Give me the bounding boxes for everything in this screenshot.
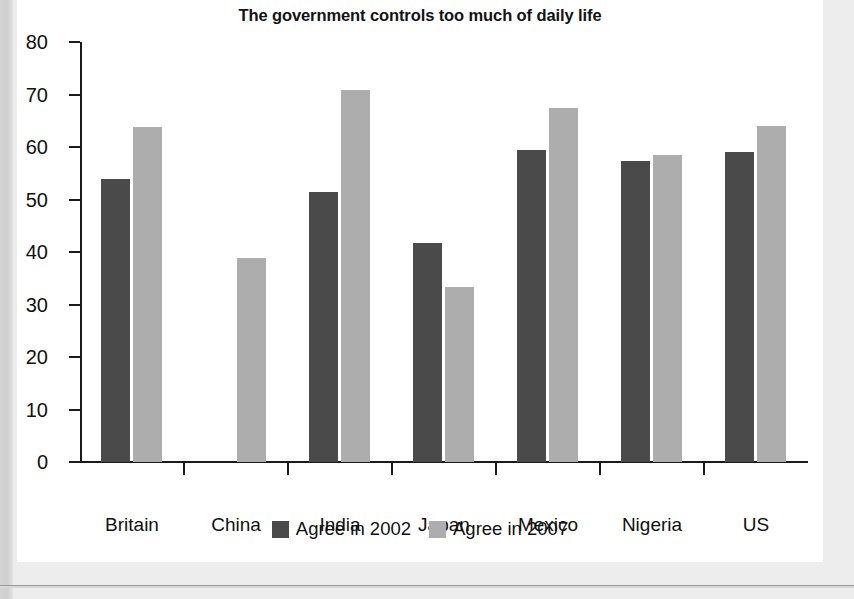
bar xyxy=(653,155,682,462)
y-axis-tick-label: 60 xyxy=(8,136,48,159)
bar-group xyxy=(496,42,600,462)
y-axis-tick xyxy=(69,146,80,148)
bar xyxy=(517,150,546,462)
legend-swatch-icon xyxy=(272,521,289,538)
bar xyxy=(725,152,754,462)
bar-group xyxy=(184,42,288,462)
legend-item: Agree in 2007 xyxy=(429,518,568,540)
chart-legend: Agree in 2002Agree in 2007 xyxy=(17,518,823,540)
bar xyxy=(445,287,474,462)
y-axis-tick xyxy=(69,251,80,253)
bar xyxy=(413,243,442,462)
legend-swatch-icon xyxy=(429,521,446,538)
bar xyxy=(757,126,786,462)
legend-label: Agree in 2002 xyxy=(296,518,411,540)
y-axis-tick-label: 70 xyxy=(8,83,48,106)
bar-group xyxy=(600,42,704,462)
y-axis-tick-label: 80 xyxy=(8,31,48,54)
y-axis-tick xyxy=(69,94,80,96)
y-axis-tick-label: 30 xyxy=(8,293,48,316)
y-axis-tick-label: 0 xyxy=(8,451,48,474)
y-axis-tick xyxy=(69,409,80,411)
plot-area: 01020304050607080 BritainChinaIndiaJapan… xyxy=(80,42,808,462)
chart-title: The government controls too much of dail… xyxy=(17,6,823,25)
bar xyxy=(341,90,370,462)
legend-item: Agree in 2002 xyxy=(272,518,411,540)
y-axis-tick-label: 40 xyxy=(8,241,48,264)
legend-label: Agree in 2007 xyxy=(453,518,568,540)
bar xyxy=(309,192,338,462)
y-axis-tick xyxy=(69,199,80,201)
bar xyxy=(549,108,578,462)
x-axis-tick xyxy=(703,462,705,475)
chart-panel: The government controls too much of dail… xyxy=(17,0,823,562)
bar-group xyxy=(392,42,496,462)
y-axis-tick xyxy=(69,41,80,43)
bar xyxy=(237,258,266,462)
y-axis-tick-label: 50 xyxy=(8,188,48,211)
x-axis-tick xyxy=(391,462,393,475)
x-axis-tick xyxy=(287,462,289,475)
bar-group xyxy=(704,42,808,462)
x-axis-tick xyxy=(599,462,601,475)
y-axis-tick xyxy=(69,461,80,463)
y-axis-tick-label: 20 xyxy=(8,346,48,369)
bar xyxy=(133,127,162,462)
bar-group xyxy=(80,42,184,462)
scanned-page: The government controls too much of dail… xyxy=(0,0,854,599)
bar xyxy=(621,161,650,462)
x-axis-tick xyxy=(495,462,497,475)
y-axis-tick xyxy=(69,356,80,358)
y-axis-tick xyxy=(69,304,80,306)
bar xyxy=(101,179,130,463)
x-axis-tick xyxy=(183,462,185,475)
page-divider-rule-soft xyxy=(0,586,854,588)
y-axis-tick-label: 10 xyxy=(8,398,48,421)
bar-group xyxy=(288,42,392,462)
